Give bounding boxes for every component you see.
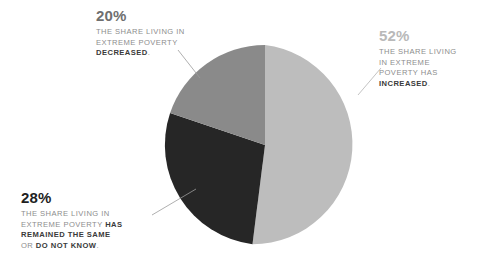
callout-increased-line2: in extreme xyxy=(379,58,430,67)
percent-label-same-or-unknown: 28% xyxy=(21,189,161,206)
percent-label-increased: 52% xyxy=(379,27,487,44)
callout-same-or-unknown: 28% The share living in extreme poverty … xyxy=(21,189,161,251)
callout-increased-emphasis: increased xyxy=(379,79,428,88)
callout-same-line4-prefix: or xyxy=(21,241,36,250)
percent-label-decreased: 20% xyxy=(96,7,216,24)
poverty-perception-pie-infographic: 20% The share living in extreme poverty … xyxy=(0,0,490,276)
callout-decreased-line2: extreme poverty xyxy=(96,38,178,47)
callout-increased: 52% The share living in extreme poverty … xyxy=(379,27,487,89)
leader-line-increased xyxy=(358,68,381,95)
callout-same-line2-prefix: extreme poverty xyxy=(21,220,105,229)
callout-increased-line1: The share living xyxy=(379,47,457,56)
pie-slice-increased[interactable] xyxy=(252,45,352,244)
callout-same-period: . xyxy=(97,241,100,250)
callout-decreased-period: . xyxy=(148,48,151,57)
callout-text-increased: The share living in extreme poverty has … xyxy=(379,47,487,89)
callout-same-emphasis3: do not know xyxy=(36,241,97,250)
callout-text-same-or-unknown: The share living in extreme poverty has … xyxy=(21,209,161,251)
callout-decreased-line1: The share living in xyxy=(96,27,185,36)
callout-decreased: 20% The share living in extreme poverty … xyxy=(96,7,216,59)
callout-increased-period: . xyxy=(428,79,431,88)
callout-decreased-emphasis: decreased xyxy=(96,48,148,57)
callout-increased-line3: poverty has xyxy=(379,68,438,77)
callout-text-decreased: The share living in extreme poverty decr… xyxy=(96,27,216,59)
callout-same-line1: The share living in xyxy=(21,209,110,218)
callout-same-emphasis2: remained the same xyxy=(21,230,111,239)
callout-same-emphasis1: has xyxy=(105,220,122,229)
